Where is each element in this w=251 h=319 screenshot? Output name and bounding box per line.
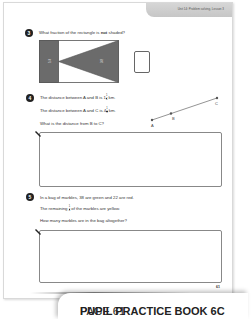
- question-text-part: The distance between A and B is 1: [40, 95, 106, 100]
- rectangle-diagram: 1/4 3/8: [39, 40, 119, 83]
- unit-header-tab: Unit 14: Problem solving, Lesson 3: [146, 3, 232, 17]
- point-a-label: A: [151, 123, 154, 128]
- left-shade-label: 1/4: [48, 59, 52, 64]
- unit-header-text: Unit 14: Problem solving, Lesson 3: [178, 7, 224, 11]
- question-4-line-1: The distance between A and B is 114 km.: [40, 95, 116, 101]
- question-4-line-3: What is the distance from B to C?: [40, 121, 104, 126]
- pencil-icon: [35, 229, 41, 235]
- question-5-line-3: How many marbles are in the bag altogeth…: [40, 218, 127, 223]
- question-text-part: What fraction of the rectangle is: [39, 30, 101, 35]
- line-segment-diagram: A B C: [147, 94, 222, 132]
- question-4-line-2: The distance between A and C is 413 km.: [40, 108, 116, 114]
- question-text-part: The remaining: [40, 206, 69, 211]
- question-text-part: of the marbles are yellow.: [70, 206, 120, 211]
- question-5-line-1: In a bag of marbles, 38 are green and 22…: [40, 195, 134, 200]
- question-text-part: The distance between A and C is 4: [40, 108, 106, 113]
- book-footer-label: PUPIL PRACTICE BOOK 6C PAGE 61: [58, 293, 248, 319]
- point-b-label: B: [172, 116, 175, 121]
- question-number-badge: 5: [26, 193, 34, 201]
- point-c-label: C: [215, 101, 218, 106]
- page-number: 61: [216, 285, 220, 289]
- question-text-part: km.: [108, 108, 116, 113]
- working-area[interactable]: [39, 132, 222, 187]
- question-text-part: shaded?: [107, 30, 125, 35]
- question-3-text: What fraction of the rectangle is not sh…: [39, 30, 125, 35]
- triangle-label: 3/8: [100, 59, 104, 64]
- answer-box[interactable]: [134, 51, 150, 73]
- question-text-part: km.: [107, 95, 115, 100]
- question-number-badge: 3: [25, 29, 33, 37]
- workbook-page: Unit 14: Problem solving, Lesson 3 3 Wha…: [3, 2, 233, 299]
- pencil-icon: [35, 131, 41, 137]
- question-number-badge: 4: [26, 94, 34, 102]
- footer-page: PAGE 61: [80, 305, 125, 317]
- working-area[interactable]: [39, 230, 222, 283]
- question-5-line-2: The remaining 14 of the marbles are yell…: [40, 206, 120, 212]
